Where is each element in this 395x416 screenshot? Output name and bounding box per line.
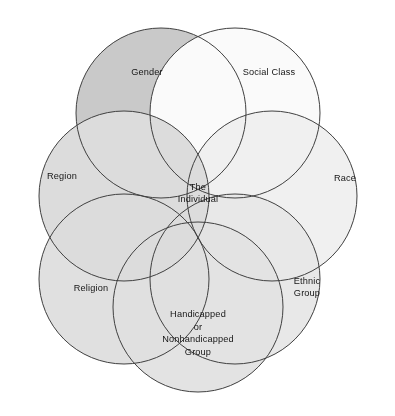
figure-root: Gender Social Class Race EthnicGroup Han… — [0, 0, 395, 416]
label-gender: Gender — [131, 67, 163, 77]
label-region: Region — [47, 171, 77, 181]
label-line: Race — [334, 173, 356, 183]
label-social-class: Social Class — [243, 67, 296, 77]
label-line: Ethnic — [294, 276, 321, 286]
label-line: Nonhandicapped — [162, 335, 234, 345]
label-race: Race — [334, 173, 356, 183]
label-line: Group — [294, 289, 320, 299]
label-line: Handicapped — [170, 310, 226, 320]
center-label-line: The — [190, 182, 206, 192]
label-line: Region — [47, 171, 77, 181]
label-line: Social Class — [243, 67, 296, 77]
venn-diagram: Gender Social Class Race EthnicGroup Han… — [0, 0, 395, 416]
center-label-line: Individual — [178, 194, 218, 204]
label-line: or — [194, 322, 202, 332]
label-religion: Religion — [74, 283, 108, 293]
label-line: Group — [185, 347, 211, 357]
label-line: Religion — [74, 283, 108, 293]
label-line: Gender — [131, 67, 163, 77]
